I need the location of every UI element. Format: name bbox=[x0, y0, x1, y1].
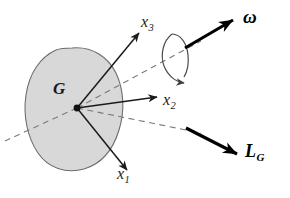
angular-momentum-label-base: L bbox=[245, 141, 256, 161]
physical-vectors-group bbox=[185, 20, 237, 154]
axis-label-x2-base: x bbox=[163, 91, 170, 108]
axis-label-x3: x3 bbox=[141, 14, 153, 30]
center-of-mass-point bbox=[74, 105, 81, 112]
rotation-direction-arc bbox=[162, 34, 184, 83]
axis-label-x2-subscript: 2 bbox=[171, 100, 176, 111]
angular-momentum-label-subscript: G bbox=[257, 151, 265, 163]
angular-velocity-vector-arrow bbox=[185, 20, 233, 48]
angular-velocity-label: ω bbox=[243, 7, 257, 26]
axis-label-x2: x2 bbox=[163, 92, 175, 108]
angular-momentum-label: LG bbox=[245, 142, 264, 160]
axis-label-x3-base: x bbox=[141, 13, 148, 30]
axis-label-x3-subscript: 3 bbox=[149, 22, 154, 33]
center-of-mass-label: G bbox=[53, 80, 65, 97]
axis-label-x1-subscript: 1 bbox=[125, 174, 130, 185]
angular-momentum-vector-arrow bbox=[186, 128, 237, 154]
axis-label-x1-base: x bbox=[117, 165, 124, 182]
angular-velocity-label-base: ω bbox=[243, 6, 257, 27]
axis-label-x1: x1 bbox=[117, 166, 129, 182]
figure-canvas: x3 x2 x1 ω LG G bbox=[0, 0, 290, 198]
